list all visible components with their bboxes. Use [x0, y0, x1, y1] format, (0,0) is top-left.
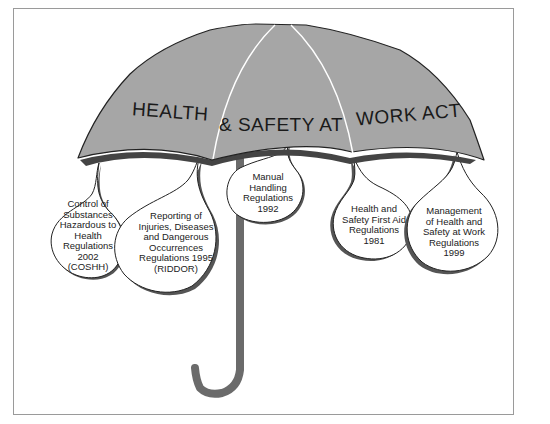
- regulation-management: Management of Health and Safety at Work …: [412, 206, 496, 259]
- text-line: Regulations: [238, 193, 298, 204]
- text-line: Safety at Work: [412, 227, 496, 238]
- canopy-title-safety: & SAFETY AT: [219, 114, 343, 136]
- text-line: Regulations: [335, 225, 413, 236]
- regulation-first-aid: Health and Safety First Aid Regulations …: [335, 204, 413, 246]
- text-line: Management: [412, 206, 496, 217]
- text-line: (RIDDOR): [134, 264, 218, 275]
- text-line: Manual: [238, 172, 298, 183]
- text-line: Regulations: [50, 241, 126, 252]
- text-line: Hazardous to: [50, 220, 126, 231]
- text-line: 1981: [335, 236, 413, 247]
- text-line: Regulations 1995: [134, 253, 218, 264]
- text-line: Control of: [50, 199, 126, 210]
- text-line: Health and: [335, 204, 413, 215]
- text-line: Reporting of: [134, 211, 218, 222]
- umbrella-canopy: [78, 24, 484, 160]
- regulation-coshh: Control of Substances Hazardous to Healt…: [50, 199, 126, 273]
- text-line: and Dangerous: [134, 232, 218, 243]
- text-line: 1992: [238, 204, 298, 215]
- regulation-riddor: Reporting of Injuries, Diseases and Dang…: [134, 211, 218, 274]
- text-line: 1999: [412, 248, 496, 259]
- text-line: (COSHH): [50, 262, 126, 273]
- regulation-manual-handling: Manual Handling Regulations 1992: [238, 172, 298, 214]
